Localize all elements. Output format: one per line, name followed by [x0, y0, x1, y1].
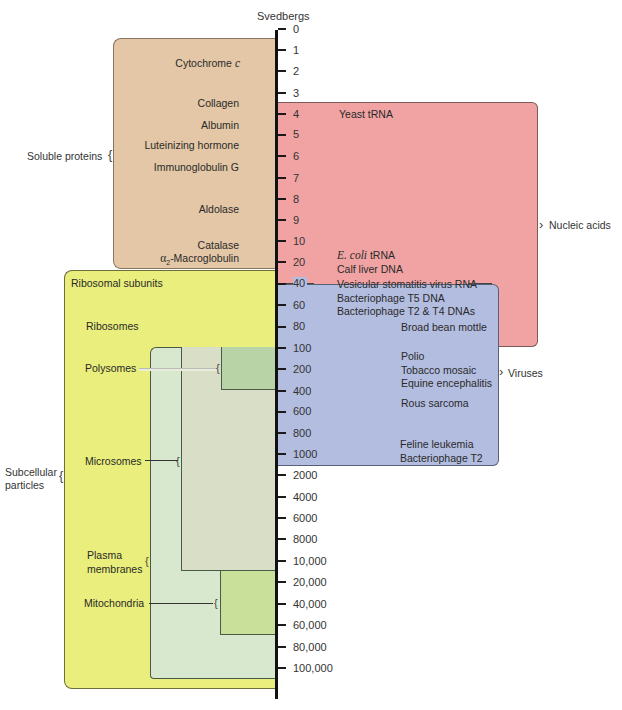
t5-dna-label: Bacteriophage T5 DNA [337, 292, 445, 304]
tick-label: 2000 [293, 469, 317, 481]
albumin-label: Albumin [201, 119, 239, 131]
plasma-membranes-label: Plasma membranes [87, 549, 142, 575]
tick-label: 6000 [293, 512, 317, 524]
collagen-label: Collagen [198, 97, 239, 109]
cytochrome-c-label: Cytochrome c [175, 57, 240, 69]
ribosomes-label: Ribosomes [86, 320, 139, 332]
tick-label: 7 [293, 172, 299, 184]
broad-bean-mottle-label: Broad bean mottle [401, 321, 487, 333]
tick-label: 80 [293, 320, 305, 332]
mitochondria-leader-line [149, 603, 213, 604]
soluble-proteins-group-label: Soluble proteins [27, 150, 102, 162]
nucleic-acids-group-label: Nucleic acids [549, 219, 611, 231]
tick-label: 800 [293, 427, 311, 439]
tobacco-mosaic-label: Tobacco mosaic [401, 364, 476, 376]
soluble-proteins-brace-icon: { [108, 149, 112, 161]
rous-sarcoma-label: Rous sarcoma [401, 397, 469, 409]
yeast-trna-label: Yeast tRNA [339, 108, 393, 120]
alpha2-macroglobulin-label: α2-Macroglobulin [160, 252, 239, 269]
tick-label: 0 [293, 23, 299, 35]
ribosomal-subunits-label: Ribosomal subunits [71, 277, 163, 289]
plasma-membranes-brace-icon: { [145, 555, 149, 567]
microsomes-label: Microsomes [85, 455, 142, 467]
tick-label: 200 [293, 363, 311, 375]
tick-label: 80,000 [293, 641, 327, 653]
vsv-rna-label: Vesicular stomatitis virus RNA [337, 278, 477, 290]
nucleic-acids-brace-icon: › [539, 219, 543, 231]
tick-label: 100 [293, 342, 311, 354]
tick-label: 40,000 [293, 598, 327, 610]
tick-label: 8 [293, 193, 299, 205]
microsomes-brace-icon: { [176, 455, 180, 467]
polysomes-region [221, 347, 278, 390]
t2-t4-dnas-label: Bacteriophage T2 & T4 DNAs [337, 305, 475, 317]
luteinizing-hormone-label: Luteinizing hormone [144, 139, 239, 151]
tick-label: 20 [293, 256, 305, 268]
polysomes-leader-line [139, 368, 217, 371]
tick-label: 100,000 [293, 662, 333, 674]
subcellular-particles-group-label: Subcellular particles [5, 466, 57, 491]
microsomes-leader-line [145, 460, 178, 461]
mitochondria-region [220, 570, 278, 635]
bacteriophage-t2-label: Bacteriophage T2 [400, 452, 483, 464]
ecoli-trna-label: E. coli tRNA [337, 249, 395, 261]
tick-label: 1 [293, 44, 299, 56]
tick-label: 60,000 [293, 619, 327, 631]
mitochondria-label: Mitochondria [84, 597, 144, 609]
immunoglobulin-g-label: Immunoglobulin G [154, 161, 239, 173]
catalase-label: Catalase [198, 239, 239, 251]
tick-label: 4000 [293, 491, 317, 503]
aldolase-label: Aldolase [199, 203, 239, 215]
tick-label: 20,000 [293, 576, 327, 588]
tick-label: 400 [293, 385, 311, 397]
feline-leukemia-label: Feline leukemia [400, 438, 474, 450]
tick-label: 4 [293, 108, 299, 120]
tick-label: 600 [293, 405, 311, 417]
tick-label: 10,000 [293, 555, 327, 567]
tick-label: 40 [293, 277, 307, 289]
equine-encephalitis-label: Equine encephalitis [401, 377, 492, 389]
axis-title: Svedbergs [257, 10, 310, 22]
polio-label: Polio [401, 350, 424, 362]
calf-liver-dna-label: Calf liver DNA [337, 263, 403, 275]
tick-label: 60 [293, 299, 305, 311]
tick-label: 1000 [293, 448, 317, 460]
tick-label: 5 [293, 128, 299, 140]
tick-label: 10 [293, 235, 305, 247]
subcellular-particles-brace-icon: { [59, 470, 63, 482]
polysomes-label: Polysomes [85, 362, 136, 374]
polysomes-brace-icon: { [216, 362, 220, 374]
tick-label: 3 [293, 87, 299, 99]
viruses-brace-icon: › [499, 366, 503, 378]
axis-line [275, 30, 278, 699]
tick-label: 9 [293, 214, 299, 226]
soluble-proteins-region [113, 38, 278, 269]
tick-label: 2 [293, 65, 299, 77]
vsv-leader-line [468, 283, 492, 284]
tick-label: 8000 [293, 533, 317, 545]
tick-label: 6 [293, 150, 299, 162]
mitochondria-brace-icon: { [214, 597, 218, 609]
viruses-group-label: Viruses [508, 367, 543, 379]
